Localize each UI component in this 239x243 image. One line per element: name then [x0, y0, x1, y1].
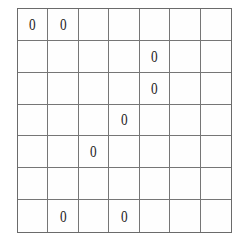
grid-cell-r1c1[interactable]: 0 — [18, 9, 48, 41]
grid-cell-r4c6[interactable] — [170, 105, 200, 137]
cell-value: 0 — [60, 208, 67, 225]
grid-cell-r4c1[interactable] — [18, 105, 48, 137]
grid-cell-r3c1[interactable] — [18, 73, 48, 105]
grid-cell-r5c3[interactable]: 0 — [79, 136, 109, 168]
grid-cell-r6c2[interactable] — [48, 168, 78, 200]
grid-cell-r6c3[interactable] — [79, 168, 109, 200]
grid-cell-r1c3[interactable] — [79, 9, 109, 41]
cell-value: 0 — [60, 16, 67, 33]
grid-cell-r6c4[interactable] — [109, 168, 139, 200]
grid-cell-r4c2[interactable] — [48, 105, 78, 137]
grid-cell-r2c2[interactable] — [48, 41, 78, 73]
grid-cell-r3c5[interactable]: 0 — [140, 73, 170, 105]
grid-cell-r5c7[interactable] — [201, 136, 231, 168]
grid-cell-r4c5[interactable] — [140, 105, 170, 137]
grid-cell-r2c4[interactable] — [109, 41, 139, 73]
grid-cell-r7c5[interactable] — [140, 200, 170, 232]
grid-cell-r2c1[interactable] — [18, 41, 48, 73]
grid-cell-r5c1[interactable] — [18, 136, 48, 168]
cell-value: 0 — [29, 16, 36, 33]
grid-cell-r7c1[interactable] — [18, 200, 48, 232]
grid-cell-r4c7[interactable] — [201, 105, 231, 137]
cell-value: 0 — [151, 48, 158, 65]
grid-cell-r2c7[interactable] — [201, 41, 231, 73]
grid-cell-r1c6[interactable] — [170, 9, 200, 41]
cell-value: 0 — [121, 111, 128, 128]
grid-cell-r1c5[interactable] — [140, 9, 170, 41]
grid-cell-r1c2[interactable]: 0 — [48, 9, 78, 41]
grid-cell-r6c5[interactable] — [140, 168, 170, 200]
grid-cell-r3c2[interactable] — [48, 73, 78, 105]
grid-cell-r7c3[interactable] — [79, 200, 109, 232]
grid-cell-r7c7[interactable] — [201, 200, 231, 232]
grid-cell-r3c4[interactable] — [109, 73, 139, 105]
grid-cell-r5c5[interactable] — [140, 136, 170, 168]
grid-cell-r6c7[interactable] — [201, 168, 231, 200]
cell-value: 0 — [90, 143, 97, 160]
grid-cell-r4c3[interactable] — [79, 105, 109, 137]
grid-cell-r5c6[interactable] — [170, 136, 200, 168]
cell-value: 0 — [121, 208, 128, 225]
grid-cell-r4c4[interactable]: 0 — [109, 105, 139, 137]
grid-cell-r3c3[interactable] — [79, 73, 109, 105]
grid-cell-r6c6[interactable] — [170, 168, 200, 200]
grid-cell-r6c1[interactable] — [18, 168, 48, 200]
grid-cell-r7c2[interactable]: 0 — [48, 200, 78, 232]
grid-cell-r7c4[interactable]: 0 — [109, 200, 139, 232]
grid-cell-r2c3[interactable] — [79, 41, 109, 73]
grid-cell-r3c7[interactable] — [201, 73, 231, 105]
grid-cell-r1c7[interactable] — [201, 9, 231, 41]
grid-cell-r5c2[interactable] — [48, 136, 78, 168]
grid-cell-r7c6[interactable] — [170, 200, 200, 232]
grid-cell-r1c4[interactable] — [109, 9, 139, 41]
cell-value: 0 — [151, 80, 158, 97]
grid-table: 0 0 0 0 0 0 0 0 — [17, 8, 232, 233]
grid-cell-r5c4[interactable] — [109, 136, 139, 168]
grid-cell-r3c6[interactable] — [170, 73, 200, 105]
grid-cell-r2c5[interactable]: 0 — [140, 41, 170, 73]
grid-cell-r2c6[interactable] — [170, 41, 200, 73]
